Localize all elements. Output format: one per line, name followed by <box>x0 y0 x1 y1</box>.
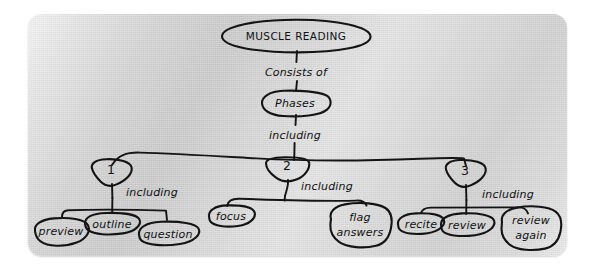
node-outline[interactable]: outline <box>85 213 140 235</box>
node-question-label: question <box>143 228 192 241</box>
node-review[interactable]: review <box>441 213 494 236</box>
node-outline-label: outline <box>92 218 131 231</box>
node-phase-3-label: 3 <box>461 163 469 178</box>
node-review-label: review <box>448 219 486 232</box>
node-muscle-reading[interactable]: MUSCLE READING <box>222 20 371 53</box>
node-phases-label: Phases <box>275 97 315 110</box>
node-recite[interactable]: recite <box>398 213 444 234</box>
node-preview[interactable]: preview <box>35 218 89 246</box>
node-muscle-reading-label: MUSCLE READING <box>246 30 346 42</box>
node-flag-answers-label-line1: flag <box>349 211 370 224</box>
node-preview-label: preview <box>37 225 83 238</box>
link-label-including-phase-2: including <box>301 180 353 193</box>
node-flag-answers-label-line2: answers <box>337 226 384 239</box>
node-phase-3[interactable]: 3 <box>446 160 486 187</box>
node-focus-label: focus <box>216 210 246 223</box>
node-phases[interactable]: Phases <box>262 91 331 117</box>
node-review-again[interactable]: review again <box>502 206 562 250</box>
node-recite-label: recite <box>405 218 438 231</box>
node-phase-2-label: 2 <box>283 158 291 173</box>
link-label-consists-of: Consists of <box>265 66 329 79</box>
connector-phase2-to-including <box>285 180 288 196</box>
node-focus[interactable]: focus <box>209 205 255 226</box>
concept-map: MUSCLE READING Consists of Phases includ… <box>0 0 598 270</box>
connector-consistsof-to-phases <box>296 81 297 91</box>
node-question[interactable]: question <box>139 222 199 246</box>
screenshot-canvas: MUSCLE READING Consists of Phases includ… <box>0 0 598 270</box>
node-review-again-label-line1: review <box>512 214 550 227</box>
node-phase-1-label: 1 <box>107 162 115 177</box>
node-flag-answers[interactable]: flag answers <box>330 203 391 247</box>
link-label-including-root: including <box>269 129 321 142</box>
link-label-including-phase-3: including <box>482 188 534 201</box>
node-review-again-label-line2: again <box>515 229 547 242</box>
node-phase-1[interactable]: 1 <box>92 159 132 186</box>
link-label-including-phase-1: including <box>126 186 178 199</box>
